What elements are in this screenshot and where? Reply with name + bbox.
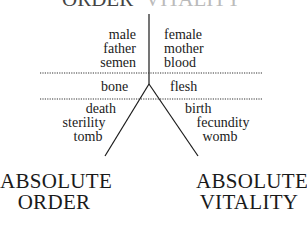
- term-blood: blood: [164, 56, 196, 70]
- term-tomb: tomb: [48, 130, 128, 144]
- term-bone: bone: [101, 80, 128, 94]
- term-female: female: [164, 28, 202, 42]
- term-flesh: flesh: [170, 80, 197, 94]
- term-birth: birth: [185, 102, 211, 116]
- term-semen: semen: [100, 56, 136, 70]
- term-father: father: [103, 42, 136, 56]
- pole-left-line2: ORDER: [0, 192, 108, 213]
- term-mother: mother: [164, 42, 204, 56]
- term-fecundity: fecundity: [183, 116, 263, 130]
- term-death-label: death: [86, 101, 116, 116]
- term-sterility: sterility: [44, 116, 124, 130]
- term-male: male: [109, 28, 136, 42]
- term-womb: womb: [180, 130, 260, 144]
- pole-left-line1: ABSOLUTE: [0, 171, 108, 192]
- pole-right-line2: VITALITY: [196, 192, 302, 213]
- term-death: death: [50, 102, 140, 116]
- pole-right-line1: ABSOLUTE: [196, 171, 302, 192]
